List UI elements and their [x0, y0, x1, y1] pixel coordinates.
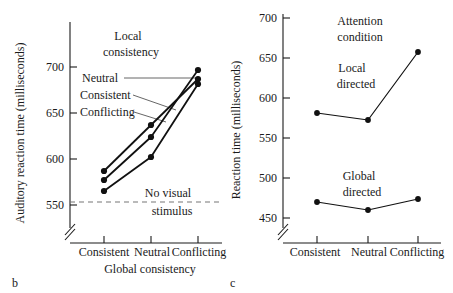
- panel-b-legend-item-neutral: Neutral: [82, 71, 119, 85]
- panel-c-ytick-label-650: 650: [259, 51, 277, 65]
- panel-c-point-local-consistent: [314, 110, 320, 116]
- panel-b-point-neutral-neutral: [148, 134, 154, 140]
- panel-c-legend-title-line1: Attention: [337, 14, 382, 28]
- panel-c: 700 650 600 550 500 450 Consistent Neutr…: [229, 11, 444, 290]
- panel-b-ytick-label-650: 650: [46, 106, 64, 120]
- panel-b-label: b: [12, 276, 18, 290]
- figure-container: 700 650 600 550 Consistent Neutral Confl…: [0, 0, 453, 293]
- panel-b-y-axis-title: Auditory reaction time (milliseconds): [13, 43, 27, 224]
- panel-c-y-axis-title: Reaction time (milliseconds): [229, 61, 243, 200]
- panel-b-legend-item-consistent: Consistent: [80, 88, 131, 102]
- panel-b-point-conflicting-conflicting: [195, 81, 201, 87]
- panel-c-ytick-label-600: 600: [259, 91, 277, 105]
- panel-b-reference-label-line2: stimulus: [152, 204, 193, 218]
- panel-c-ytick-label-500: 500: [259, 171, 277, 185]
- panel-c-series-label-local-line1: Local: [338, 61, 366, 75]
- figure-svg: 700 650 600 550 Consistent Neutral Confl…: [0, 0, 453, 293]
- panel-b-legend-title-line2: consistency: [103, 45, 159, 59]
- panel-b-xtick-label-neutral: Neutral: [134, 245, 171, 259]
- panel-b-leader-conflicting: [134, 112, 166, 122]
- panel-b-ytick-label-700: 700: [46, 60, 64, 74]
- panel-c-point-local-neutral: [365, 117, 371, 123]
- panel-b-reference-label-line1: No visual: [145, 186, 192, 200]
- panel-b-point-consistent-neutral: [148, 122, 154, 128]
- panel-b-point-consistent-consistent: [101, 168, 107, 174]
- panel-c-series-label-local-line2: directed: [337, 77, 376, 91]
- panel-b-ytick-label-550: 550: [46, 198, 64, 212]
- panel-b-legend-title-line1: Local: [114, 29, 142, 43]
- panel-c-legend-title-line2: condition: [337, 30, 382, 44]
- panel-b-legend-item-conflicting: Conflicting: [80, 105, 135, 119]
- panel-c-point-global-conflicting: [415, 196, 421, 202]
- panel-c-axis-break-2: [278, 229, 288, 240]
- panel-c-xtick-label-consistent: Consistent: [290, 245, 341, 259]
- panel-c-xtick-label-neutral: Neutral: [351, 245, 388, 259]
- panel-b-point-conflicting-neutral: [148, 154, 154, 160]
- panel-c-ytick-label-450: 450: [259, 211, 277, 225]
- panel-b-point-neutral-consistent: [101, 177, 107, 183]
- panel-c-point-global-consistent: [314, 199, 320, 205]
- panel-c-point-local-conflicting: [415, 49, 421, 55]
- panel-b-xtick-label-consistent: Consistent: [79, 245, 130, 259]
- panel-c-label: c: [230, 276, 235, 290]
- panel-c-ytick-label-700: 700: [259, 11, 277, 25]
- panel-b-point-conflicting-consistent: [101, 188, 107, 194]
- panel-c-point-global-neutral: [365, 207, 371, 213]
- panel-c-series-label-global-line1: Global: [343, 169, 376, 183]
- panel-b-axis-break-2: [65, 229, 75, 240]
- panel-b-xtick-label-conflicting: Conflicting: [172, 245, 227, 259]
- panel-b-x-axis-title: Global consistency: [104, 262, 196, 276]
- panel-c-series-label-global-line2: directed: [343, 185, 382, 199]
- panel-b-point-neutral-conflicting: [195, 67, 201, 73]
- panel-c-xtick-label-conflicting: Conflicting: [390, 245, 445, 259]
- panel-c-ytick-label-550: 550: [259, 131, 277, 145]
- panel-b-ytick-label-600: 600: [46, 152, 64, 166]
- panel-b: 700 650 600 550 Consistent Neutral Confl…: [12, 22, 226, 290]
